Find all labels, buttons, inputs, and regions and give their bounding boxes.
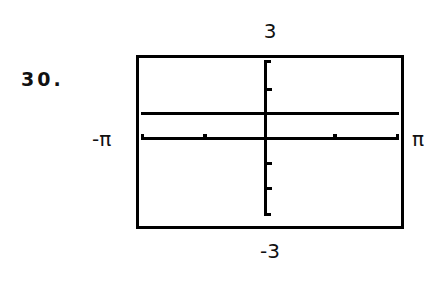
x-axis-right-cap bbox=[396, 134, 399, 140]
y-axis-bottom-cap bbox=[264, 213, 271, 216]
label-y-max: 3 bbox=[136, 20, 404, 42]
calculator-screen bbox=[136, 55, 404, 229]
x-axis bbox=[141, 137, 399, 140]
label-y-min: -3 bbox=[136, 240, 404, 262]
plot-area bbox=[139, 58, 401, 226]
y-axis-tick-minus1 bbox=[267, 162, 272, 165]
y-axis-tick-minus2 bbox=[267, 187, 272, 190]
x-axis-tick-minus-half-pi bbox=[203, 134, 207, 138]
function-curve bbox=[141, 112, 399, 115]
y-axis-tick-2 bbox=[267, 88, 272, 91]
x-axis-left-cap bbox=[141, 134, 144, 140]
exercise-figure: 30. 3 -3 -π π bbox=[0, 0, 448, 283]
label-x-max: π bbox=[412, 128, 424, 150]
label-x-min: -π bbox=[92, 128, 111, 150]
y-axis-top-cap bbox=[264, 60, 271, 63]
x-axis-tick-half-pi bbox=[333, 134, 337, 138]
problem-number: 30. bbox=[21, 67, 64, 91]
